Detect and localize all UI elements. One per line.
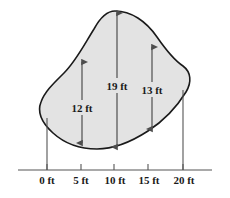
horizontal-distance-axis: 0 ft 5 ft 10 ft 15 ft 20 ft xyxy=(18,164,212,186)
measurement-19ft-label: 19 ft xyxy=(106,80,127,92)
lake-cross-section-diagram: 12 ft 19 ft 13 ft 0 ft 5 ft 10 ft 15 ft xyxy=(0,0,230,198)
measurement-13ft-label: 13 ft xyxy=(141,84,162,96)
axis-tick-label-10ft: 10 ft xyxy=(104,174,125,186)
axis-tick-label-5ft: 5 ft xyxy=(73,174,89,186)
measurement-12ft-label: 12 ft xyxy=(71,102,92,114)
figure-container: 12 ft 19 ft 13 ft 0 ft 5 ft 10 ft 15 ft xyxy=(0,0,230,198)
axis-tick-label-15ft: 15 ft xyxy=(138,174,159,186)
axis-tick-label-0ft: 0 ft xyxy=(39,174,55,186)
axis-tick-label-20ft: 20 ft xyxy=(173,174,194,186)
